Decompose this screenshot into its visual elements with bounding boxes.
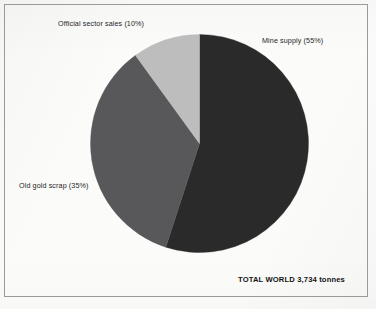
pie-label-official-sector-sales: Official sector sales (10%) bbox=[58, 20, 144, 28]
pie-chart-graphic bbox=[89, 33, 310, 254]
pie-label-old-gold-scrap: Old gold scrap (35%) bbox=[19, 182, 89, 190]
pie-chart-figure: Official sector sales (10%) Mine supply … bbox=[0, 0, 376, 309]
pie-svg bbox=[89, 33, 310, 254]
total-world-note: TOTAL WORLD 3,734 tonnes bbox=[238, 275, 345, 284]
pie-label-mine-supply: Mine supply (55%) bbox=[262, 37, 323, 45]
